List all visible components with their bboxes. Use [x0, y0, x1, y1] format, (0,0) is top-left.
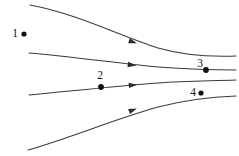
annotation-point-2: 2: [97, 69, 104, 90]
point-marker-4: [198, 90, 203, 95]
point-label-4: 4: [190, 86, 196, 98]
flow-arrow-icon-4: [128, 106, 138, 114]
streamline-1: [30, 5, 236, 56]
streamline-figure: 1 2 3 4: [0, 0, 239, 156]
streamline-4: [28, 96, 236, 150]
point-label-2: 2: [97, 69, 103, 81]
point-marker-3: [203, 67, 209, 73]
annotation-point-4: 4: [190, 86, 203, 98]
flow-arrow-icon-3: [129, 82, 138, 88]
point-label-3: 3: [197, 57, 203, 69]
streamline-group: [28, 5, 236, 150]
flow-diagram-canvas: 1 2 3 4: [0, 0, 239, 156]
annotation-point-1: 1: [12, 27, 26, 39]
point-label-1: 1: [12, 27, 18, 39]
annotation-point-3: 3: [197, 57, 209, 73]
point-marker-2: [98, 84, 104, 90]
streamline-3: [29, 80, 236, 95]
point-marker-1: [21, 31, 26, 36]
flow-direction-arrow-group: [128, 38, 138, 114]
